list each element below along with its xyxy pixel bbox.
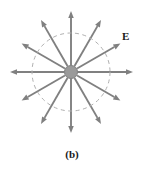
- electric-field-diagram: [0, 0, 144, 144]
- point-charge-circle: [65, 66, 78, 79]
- field-line-270deg-arrowhead-icon: [68, 126, 74, 133]
- field-line-330deg: [77, 76, 120, 101]
- field-line-270deg: [68, 79, 74, 133]
- field-line-180deg-arrowhead-icon: [10, 69, 17, 75]
- field-line-300deg-shaft: [75, 78, 98, 118]
- field-line-90deg-arrowhead-icon: [68, 11, 74, 18]
- field-line-150deg: [22, 44, 65, 69]
- field-line-330deg-arrowhead-icon: [113, 95, 120, 101]
- field-line-0deg: [78, 69, 133, 75]
- figure-container: E (b): [0, 0, 144, 171]
- field-line-150deg-arrowhead-icon: [22, 44, 29, 50]
- field-line-210deg-arrowhead-icon: [22, 95, 29, 101]
- field-line-120deg-shaft: [45, 26, 68, 66]
- field-line-240deg-arrowhead-icon: [41, 117, 47, 124]
- field-vector-label-e: E: [122, 31, 129, 42]
- field-line-120deg: [41, 20, 68, 66]
- field-line-240deg-shaft: [45, 78, 68, 118]
- field-line-180deg: [10, 69, 64, 75]
- field-line-300deg-arrowhead-icon: [95, 117, 101, 124]
- field-line-30deg-arrowhead-icon: [113, 44, 120, 50]
- field-line-60deg-arrowhead-icon: [95, 20, 101, 27]
- field-line-90deg: [68, 11, 74, 65]
- field-line-210deg: [22, 76, 65, 101]
- field-line-120deg-arrowhead-icon: [41, 20, 47, 27]
- field-line-30deg: [77, 44, 120, 69]
- field-line-240deg: [41, 78, 68, 124]
- field-line-60deg-shaft: [75, 26, 98, 66]
- field-line-0deg-arrowhead-icon: [126, 69, 133, 75]
- figure-caption: (b): [0, 148, 144, 160]
